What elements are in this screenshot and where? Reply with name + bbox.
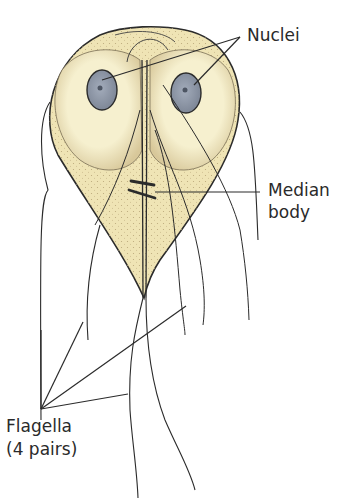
right-nucleus (171, 73, 201, 113)
label-flagella-line1: Flagella (6, 416, 72, 437)
left-nucleus (87, 70, 117, 110)
label-median-body-line1: Median (268, 180, 330, 201)
label-flagella-line2: (4 pairs) (6, 439, 77, 460)
label-median-body-line2: body (268, 202, 310, 223)
label-nuclei: Nuclei (247, 25, 300, 46)
cell-body (40, 27, 250, 298)
